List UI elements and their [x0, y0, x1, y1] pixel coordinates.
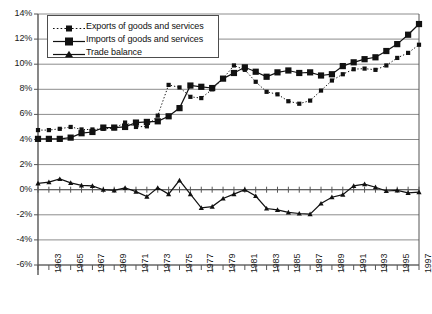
data-point-marker	[100, 124, 106, 130]
data-point-marker	[395, 56, 399, 60]
data-point-marker	[122, 124, 128, 130]
data-point-marker	[220, 76, 226, 82]
y-axis-tick-label: 14%	[2, 9, 32, 18]
x-axis-tick-label: 1963	[53, 254, 63, 273]
data-point-marker	[286, 99, 290, 103]
data-point-marker	[133, 119, 139, 125]
data-point-marker	[373, 68, 377, 72]
data-point-marker	[177, 178, 182, 183]
data-point-marker	[231, 70, 237, 76]
data-point-marker	[89, 129, 95, 135]
x-axis-tick-label: 1977	[205, 254, 215, 273]
y-axis-tick-label: 0%	[2, 185, 32, 194]
data-point-marker	[35, 136, 41, 142]
data-point-marker	[253, 193, 258, 198]
data-point-marker	[123, 185, 128, 190]
data-point-marker	[275, 92, 279, 96]
data-point-marker	[394, 41, 400, 47]
y-axis-tick-label: 4%	[2, 135, 32, 144]
data-point-marker	[177, 85, 181, 89]
legend-key-imports-icon	[52, 33, 86, 44]
x-axis-tick-label: 1967	[96, 254, 106, 273]
y-axis-tick-label: 8%	[2, 84, 32, 93]
data-point-marker	[167, 83, 171, 87]
data-point-marker	[36, 128, 40, 132]
data-point-marker	[242, 64, 248, 70]
data-point-marker	[187, 82, 193, 88]
trade-chart: Exports of goods and services Imports of…	[0, 0, 432, 314]
data-point-marker	[341, 72, 345, 76]
legend-key-exports-icon	[52, 20, 86, 31]
legend-item-imports: Imports of goods and services	[52, 32, 214, 45]
x-axis-tick-label: 1965	[75, 254, 85, 273]
data-point-marker	[296, 70, 302, 76]
data-point-marker	[417, 43, 421, 47]
data-point-marker	[329, 71, 335, 77]
data-point-marker	[330, 78, 334, 82]
data-point-marker	[57, 176, 62, 181]
x-axis-tick-label: 1975	[184, 254, 194, 273]
y-axis-tick-label: -2%	[2, 210, 32, 219]
legend-item-trade-balance: Trade balance	[52, 45, 214, 58]
data-point-marker	[254, 80, 258, 84]
data-point-marker	[351, 59, 357, 65]
data-point-marker	[297, 102, 301, 106]
x-axis-tick-label: 1981	[249, 254, 259, 273]
data-point-marker	[47, 128, 51, 132]
x-axis-tick-label: 1989	[336, 254, 346, 273]
data-point-marker	[264, 74, 270, 80]
x-axis-tick-label: 1971	[140, 254, 150, 273]
data-point-marker	[144, 119, 150, 125]
chart-legend: Exports of goods and services Imports of…	[47, 15, 219, 58]
x-axis-tick-label: 1995	[401, 254, 411, 273]
data-point-marker	[308, 98, 312, 102]
data-point-marker	[319, 88, 323, 92]
y-axis-tick-label: 10%	[2, 59, 32, 68]
data-point-marker	[405, 32, 411, 38]
x-axis-tick-label: 1969	[118, 254, 128, 273]
legend-label-exports: Exports of goods and services	[86, 21, 204, 31]
data-point-marker	[166, 113, 172, 119]
data-point-marker	[406, 51, 410, 55]
data-point-marker	[232, 63, 236, 67]
x-axis-tick-label: 1987	[314, 254, 324, 273]
data-point-marker	[176, 105, 182, 111]
data-point-marker	[361, 56, 367, 62]
data-point-marker	[307, 69, 313, 75]
data-point-marker	[340, 63, 346, 69]
legend-item-exports: Exports of goods and services	[52, 19, 214, 32]
data-point-marker	[156, 114, 160, 118]
data-point-marker	[362, 66, 366, 70]
data-point-marker	[155, 185, 160, 190]
legend-key-trade-balance-icon	[52, 46, 86, 57]
data-point-marker	[69, 125, 73, 129]
data-point-marker	[78, 130, 84, 136]
data-point-marker	[58, 127, 62, 131]
legend-label-imports: Imports of goods and services	[86, 34, 203, 44]
x-axis-tick-label: 1979	[227, 254, 237, 273]
data-point-marker	[155, 118, 161, 124]
data-point-marker	[253, 69, 259, 75]
y-axis-tick-label: -6%	[2, 260, 32, 269]
data-point-marker	[383, 48, 389, 54]
data-point-marker	[384, 63, 388, 67]
data-point-marker	[209, 85, 215, 91]
x-axis-tick-label: 1985	[292, 254, 302, 273]
x-axis-tick-label: 1997	[423, 254, 432, 273]
x-axis-tick-label: 1983	[271, 254, 281, 273]
y-axis-tick-label: 12%	[2, 34, 32, 43]
data-point-marker	[318, 72, 324, 78]
y-axis-tick-label: 6%	[2, 109, 32, 118]
data-point-marker	[68, 135, 74, 141]
data-point-marker	[198, 84, 204, 90]
data-point-marker	[265, 90, 269, 94]
data-point-marker	[188, 95, 192, 99]
data-point-marker	[372, 54, 378, 60]
data-point-marker	[318, 201, 323, 206]
data-point-marker	[46, 136, 52, 142]
data-point-marker	[199, 96, 203, 100]
data-point-marker	[285, 67, 291, 73]
data-point-marker	[416, 21, 422, 27]
series-line	[38, 179, 419, 214]
y-axis-tick-label: 2%	[2, 160, 32, 169]
